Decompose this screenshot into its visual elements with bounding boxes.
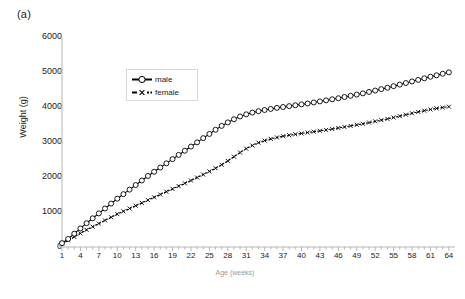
legend-label-male: male <box>155 76 172 84</box>
legend-marker-male-icon <box>131 74 153 85</box>
legend-marker-female-icon <box>131 87 153 98</box>
legend-label-female: female <box>155 89 179 97</box>
axis-lines <box>62 37 455 247</box>
series-male <box>60 70 452 246</box>
legend-item-male: male <box>131 73 193 86</box>
series-female <box>60 105 451 246</box>
figure-panel-a: (a) Weight (g) Age (weeks) 0100020003000… <box>0 0 465 299</box>
legend-item-female: female <box>131 86 193 99</box>
legend: male female <box>126 69 198 101</box>
x-tick-label: 64 <box>436 252 462 260</box>
